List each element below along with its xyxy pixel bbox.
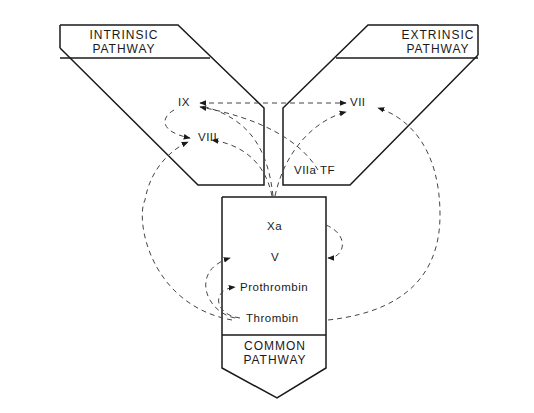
factor-prothrombin: Prothrombin <box>240 281 308 293</box>
factor-xa: Xa <box>267 220 282 232</box>
common-line2: PATHWAY <box>224 353 326 367</box>
intrinsic-line2: PATHWAY <box>74 42 174 56</box>
factor-viia-tf: VIIa TF <box>294 164 335 176</box>
extrinsic-pathway-title: EXTRINSIC PATHWAY <box>388 28 488 56</box>
factor-ix: IX <box>178 96 190 108</box>
factor-v: V <box>271 251 279 263</box>
extrinsic-line1: EXTRINSIC <box>388 28 488 42</box>
extrinsic-line2: PATHWAY <box>388 42 488 56</box>
common-pathway-title: COMMON PATHWAY <box>224 339 326 367</box>
intrinsic-pathway-title: INTRINSIC PATHWAY <box>74 28 174 56</box>
factor-vii: VII <box>350 96 366 108</box>
intrinsic-line1: INTRINSIC <box>74 28 174 42</box>
factor-thrombin: Thrombin <box>246 312 299 324</box>
common-line1: COMMON <box>224 339 326 353</box>
factor-viii: VIII <box>198 131 217 143</box>
